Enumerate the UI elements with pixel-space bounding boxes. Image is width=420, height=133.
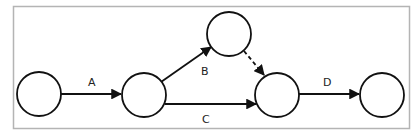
- node-3: [207, 12, 251, 56]
- network-diagram: A B C D: [0, 0, 420, 133]
- edge-b-label: B: [201, 65, 209, 78]
- dummy-dashed-arrow: [244, 51, 264, 75]
- node-2: [122, 73, 166, 117]
- edge-d-label: D: [323, 76, 331, 89]
- edge-c-label: C: [202, 113, 210, 126]
- edge-a-label: A: [88, 76, 96, 89]
- node-4: [255, 73, 299, 117]
- node-5: [360, 73, 404, 117]
- node-1: [17, 72, 61, 116]
